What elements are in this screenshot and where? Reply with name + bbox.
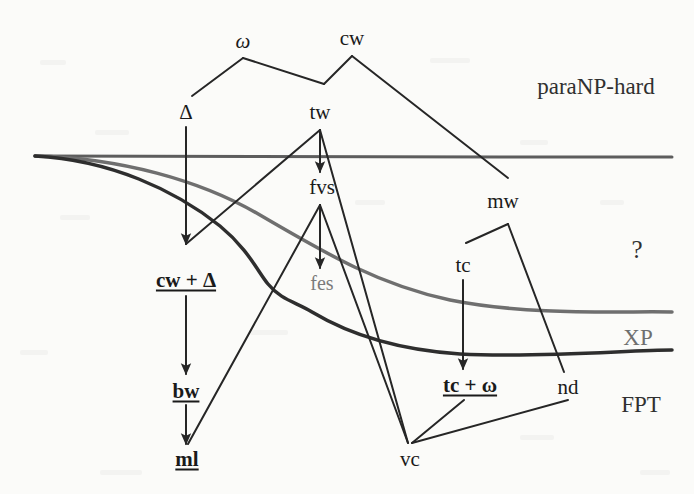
edge-fvs-vc xyxy=(320,205,408,443)
boundary-curve-xp-upper-curve xyxy=(35,156,672,312)
boundary-curve-paranp-xp-boundary xyxy=(35,156,672,157)
node-cwdelta[interactable]: cw + Δ xyxy=(156,270,216,291)
boundary-curve-fpt-boundary xyxy=(35,156,672,355)
node-ml[interactable]: ml xyxy=(175,449,198,470)
boundary-curves xyxy=(35,156,672,355)
region-label-xp: XP xyxy=(623,326,652,349)
edge-omega-tw xyxy=(243,58,324,84)
node-vc[interactable]: vc xyxy=(400,449,420,470)
node-tc[interactable]: tc xyxy=(455,255,470,276)
node-bw[interactable]: bw xyxy=(173,381,200,402)
edge-omega-delta xyxy=(192,58,243,96)
edge-cw-tw xyxy=(324,56,352,84)
node-fvs[interactable]: fvs xyxy=(309,177,335,198)
edge-tcomega-vc xyxy=(412,400,464,443)
edge-cw-mw xyxy=(352,56,508,178)
node-fes[interactable]: fes xyxy=(310,273,333,293)
hierarchy-edges xyxy=(186,56,568,444)
edge-mw-tc xyxy=(466,224,508,243)
node-nd[interactable]: nd xyxy=(558,377,579,398)
node-tw[interactable]: tw xyxy=(310,102,331,123)
edge-nd-vc xyxy=(412,400,568,443)
region-label-unknown: ? xyxy=(631,237,642,262)
node-cw[interactable]: cw xyxy=(340,28,365,49)
region-label-fpt: FPT xyxy=(621,393,661,416)
node-omega[interactable]: ω xyxy=(236,31,251,52)
edge-fvs-ml xyxy=(188,205,320,444)
edge-mw-nd xyxy=(508,224,564,372)
figure-canvas: ωcwΔtwfvsmwtccw + Δfesbwtc + ωndmlvc par… xyxy=(0,0,694,494)
region-label-paranp: paraNP-hard xyxy=(537,75,655,98)
node-delta[interactable]: Δ xyxy=(179,102,193,123)
node-mw[interactable]: mw xyxy=(487,191,519,212)
node-tcomega[interactable]: tc + ω xyxy=(443,375,497,396)
edge-tw-cwdelta xyxy=(186,130,320,244)
